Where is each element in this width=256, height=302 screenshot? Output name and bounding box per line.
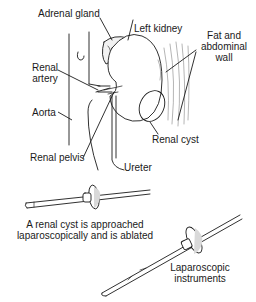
fat-wall-hatching (158, 42, 189, 126)
renal-artery-pointer (58, 70, 98, 90)
label-aorta: Aorta (32, 107, 56, 118)
diagram-canvas: Adrenal gland Left kidney Fat and abdomi… (0, 0, 256, 302)
label-fat-wall-line3: wall (196, 52, 252, 63)
label-renal-cyst: Renal cyst (152, 134, 199, 145)
label-renal-artery-line2: artery (30, 73, 60, 84)
label-renal-artery-line1: Renal (30, 62, 60, 73)
caption-line2: laparoscopically and is ablated (10, 230, 160, 241)
instrument-1-shape (25, 184, 150, 209)
caption: A renal cyst is approached laparoscopica… (10, 219, 160, 241)
label-renal-pelvis: Renal pelvis (30, 152, 84, 163)
label-ureter: Ureter (124, 162, 152, 173)
label-left-kidney: Left kidney (134, 23, 182, 34)
caption-line1: A renal cyst is approached (10, 219, 160, 230)
label-fat-wall-line2: abdominal (196, 41, 252, 52)
vessel-detail (77, 52, 84, 60)
label-renal-artery: Renal artery (30, 62, 60, 84)
label-instruments-line2: instruments (164, 273, 236, 284)
label-instruments-line1: Laparoscopic (164, 262, 236, 273)
label-fat-wall: Fat and abdominal wall (196, 30, 252, 63)
label-fat-wall-line1: Fat and (196, 30, 252, 41)
label-adrenal-gland: Adrenal gland (38, 8, 100, 19)
label-instruments: Laparoscopic instruments (164, 262, 236, 284)
